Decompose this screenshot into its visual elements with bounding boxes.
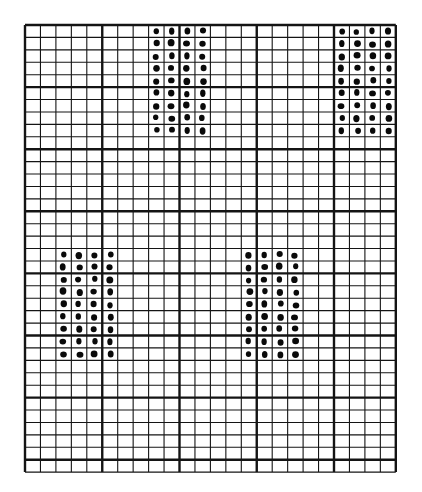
- dot: [60, 287, 67, 294]
- dot: [168, 103, 175, 109]
- dot: [61, 277, 67, 283]
- dot: [278, 339, 284, 346]
- dot: [291, 276, 297, 283]
- dot: [201, 65, 207, 72]
- dot: [200, 127, 206, 134]
- dot: [91, 301, 97, 308]
- dot: [386, 128, 392, 135]
- dot: [261, 313, 268, 320]
- dot: [246, 326, 252, 332]
- dot: [168, 77, 175, 83]
- dot: [386, 103, 392, 110]
- dot: [278, 300, 284, 306]
- dot: [369, 115, 375, 121]
- dot: [199, 54, 205, 60]
- dot: [277, 276, 282, 283]
- dot: [354, 65, 360, 71]
- dot: [91, 326, 97, 332]
- dot: [385, 52, 392, 59]
- dot: [246, 314, 252, 321]
- dot: [292, 326, 298, 332]
- dot: [261, 277, 267, 283]
- dot: [154, 127, 160, 133]
- dot: [339, 90, 345, 97]
- dot: [153, 78, 159, 84]
- dot: [200, 103, 206, 110]
- dot: [106, 276, 113, 283]
- dot: [354, 89, 359, 96]
- dot: [106, 264, 112, 270]
- dot: [183, 41, 190, 47]
- dot: [245, 252, 251, 259]
- dot: [200, 27, 206, 33]
- dot: [60, 313, 65, 319]
- dot: [261, 264, 268, 270]
- dot: [76, 326, 82, 333]
- dot: [184, 91, 189, 97]
- dot: [200, 90, 205, 97]
- dot: [154, 28, 159, 34]
- dot: [247, 288, 254, 295]
- dot: [107, 338, 112, 345]
- dot: [168, 90, 174, 97]
- dot: [60, 339, 67, 345]
- dot: [184, 52, 189, 59]
- dot: [76, 313, 81, 319]
- dot: [291, 253, 297, 259]
- dot: [354, 52, 361, 59]
- dot: [339, 127, 344, 134]
- dot: [276, 263, 283, 270]
- dot: [277, 314, 283, 321]
- dot: [261, 338, 266, 345]
- dot: [108, 314, 114, 321]
- dot: [168, 39, 175, 46]
- dot: [293, 290, 299, 296]
- dot: [92, 276, 97, 282]
- dot: [338, 103, 345, 109]
- dot: [354, 29, 359, 35]
- dot: [91, 253, 97, 259]
- dot: [183, 78, 190, 85]
- dot: [262, 288, 267, 294]
- dot: [385, 27, 391, 34]
- dot: [90, 289, 96, 295]
- dot: [262, 351, 268, 358]
- dot: [61, 300, 67, 307]
- dot: [293, 302, 300, 308]
- dot: [369, 91, 376, 97]
- dot: [370, 102, 376, 109]
- dot: [92, 338, 97, 345]
- dot: [261, 326, 267, 332]
- dot: [370, 128, 375, 134]
- dot: [153, 114, 158, 120]
- dot: [385, 40, 392, 47]
- dot: [353, 115, 359, 122]
- dot: [76, 338, 81, 344]
- graph-paper-grid: [0, 0, 422, 492]
- dot: [199, 115, 205, 121]
- dot: [91, 314, 97, 321]
- dot: [370, 77, 376, 83]
- dot: [61, 252, 66, 258]
- dot: [184, 114, 190, 120]
- dot: [107, 302, 112, 308]
- dot: [77, 352, 84, 358]
- dot: [153, 103, 159, 109]
- dot: [246, 265, 252, 272]
- dot: [108, 251, 114, 257]
- dot: [338, 65, 344, 72]
- dot: [108, 350, 114, 357]
- dot: [386, 65, 391, 71]
- dot: [386, 78, 391, 84]
- dot: [339, 53, 345, 60]
- dot: [262, 252, 267, 258]
- dot: [154, 40, 160, 46]
- dot: [277, 251, 283, 257]
- dot: [338, 78, 344, 85]
- dot: [246, 301, 253, 307]
- dot: [369, 27, 374, 34]
- dot: [386, 115, 393, 122]
- dot: [339, 40, 344, 47]
- dot: [91, 263, 97, 269]
- dot: [246, 351, 251, 357]
